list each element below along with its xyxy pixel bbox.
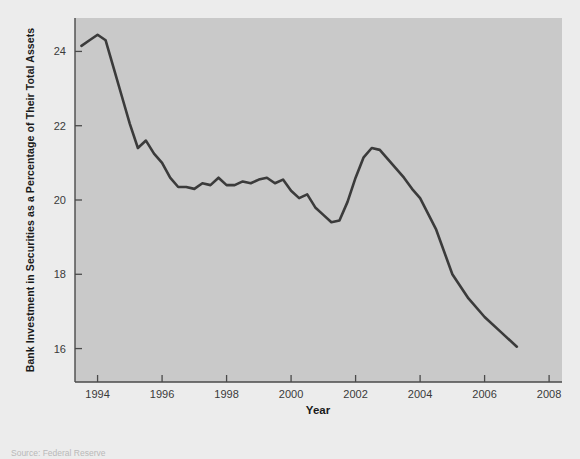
x-tick-label: 1994 xyxy=(85,388,109,400)
y-axis-title: Bank Investment in Securities as a Perce… xyxy=(24,28,36,373)
x-tick-label: 2004 xyxy=(408,388,432,400)
y-tick-label: 20 xyxy=(54,194,66,206)
y-tick-label: 24 xyxy=(54,45,66,57)
y-tick-label: 22 xyxy=(54,120,66,132)
chart-figure: 19941996199820002002200420062008 1618202… xyxy=(0,0,580,459)
line-chart: 19941996199820002002200420062008 1618202… xyxy=(0,0,580,459)
x-tick-label: 2000 xyxy=(279,388,303,400)
x-axis-title: Year xyxy=(306,404,331,416)
x-tick-label: 1998 xyxy=(214,388,238,400)
x-tick-label: 1996 xyxy=(150,388,174,400)
x-tick-label: 2008 xyxy=(537,388,561,400)
y-tick-label: 16 xyxy=(54,343,66,355)
y-tick-label: 18 xyxy=(54,268,66,280)
source-note: Source: Federal Reserve xyxy=(11,448,106,458)
plot-area-background xyxy=(75,18,562,382)
x-tick-label: 2002 xyxy=(343,388,367,400)
x-tick-label: 2006 xyxy=(472,388,496,400)
